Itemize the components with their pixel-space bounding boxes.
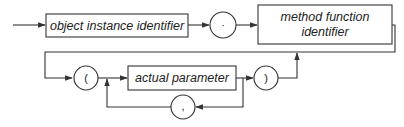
terminal-open-paren: ( — [74, 66, 98, 90]
node-method-function-identifier: method function identifier — [258, 5, 392, 44]
syntax-diagram: object instance identifier · method func… — [0, 0, 404, 127]
svg-text:method function: method function — [281, 10, 370, 24]
svg-text:): ) — [264, 72, 268, 84]
svg-text:,: , — [181, 100, 184, 112]
node-object-instance-identifier: object instance identifier — [46, 14, 188, 37]
svg-text:actual parameter: actual parameter — [135, 71, 230, 85]
node-actual-parameter: actual parameter — [128, 66, 236, 90]
return-arrow — [278, 53, 297, 78]
terminal-dot: · — [210, 12, 236, 38]
svg-text:(: ( — [84, 72, 88, 84]
terminal-close-paren: ) — [254, 66, 278, 90]
svg-text:identifier: identifier — [301, 25, 349, 39]
svg-text:object instance identifier: object instance identifier — [50, 19, 185, 33]
terminal-comma: , — [171, 95, 195, 119]
svg-text:·: · — [221, 19, 225, 31]
